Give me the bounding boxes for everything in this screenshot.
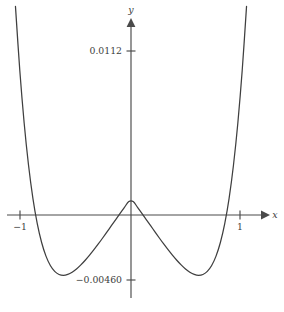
function-plot: 0.0112 −0.00460 −1 1 y x xyxy=(0,0,284,312)
x-tick-label-plus-one: 1 xyxy=(237,221,243,232)
y-axis-name-label: y xyxy=(127,4,134,15)
y-axis-arrow-icon xyxy=(127,18,136,27)
y-tick-label-lower: −0.00460 xyxy=(76,274,122,285)
x-axis-arrow-icon xyxy=(261,211,270,220)
chart-figure: 0.0112 −0.00460 −1 1 y x xyxy=(0,0,284,312)
x-axis-name-label: x xyxy=(272,209,278,220)
y-tick-label-upper: 0.0112 xyxy=(89,45,122,56)
x-tick-label-minus-one: −1 xyxy=(13,221,27,232)
